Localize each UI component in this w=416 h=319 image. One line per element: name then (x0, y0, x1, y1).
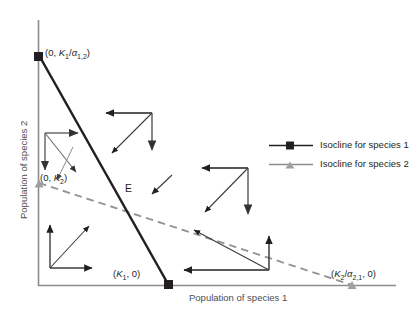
label-intercept-k1: (K1, 0) (113, 268, 140, 281)
vector-triad-lower-right (184, 230, 269, 270)
chart-figure: (0, K1/α1,2) (0, K2) (K1, 0) (K2/α2,1, 0… (0, 0, 416, 319)
legend-swatch-species-2 (268, 157, 314, 172)
legend-label-species-1: Isocline for species 1 (320, 139, 409, 150)
paren-close: ) (87, 47, 90, 58)
label-intercept-k2-over-alpha21: (K2/α2,1, 0) (331, 268, 376, 281)
isocline-species-1-line (40, 57, 168, 284)
vector-pointer-to-equilibrium (152, 175, 172, 194)
label-intercept-k1-over-alpha12: (0, K1/α1,2) (45, 47, 90, 60)
x-axis-title: Population of species 1 (189, 292, 287, 303)
paren-close: , 0) (126, 268, 140, 279)
vector-triad-upper-left (45, 133, 78, 172)
label-intercept-k2: (0, K2) (40, 172, 67, 185)
paren-close: ) (64, 172, 67, 183)
vector-triad-upper-right (106, 113, 152, 153)
paren-open: (0, (40, 172, 54, 183)
legend-label-species-2: Isocline for species 2 (320, 158, 409, 169)
paren-close: , 0) (362, 268, 376, 279)
paren-open: (0, (45, 47, 59, 58)
vector-triad-lower-left (50, 225, 92, 268)
vector-triad-middle-right (202, 168, 248, 214)
alpha-subscript: 2,1 (352, 274, 362, 281)
legend-swatch-species-1 (268, 138, 314, 153)
marker-intercept-k1-over-alpha12 (34, 52, 43, 61)
label-equilibrium-point: E (125, 182, 132, 194)
alpha-subscript: 1,2 (77, 53, 87, 60)
marker-intercept-k1 (164, 280, 173, 289)
y-axis-title: Population of species 2 (18, 121, 29, 219)
